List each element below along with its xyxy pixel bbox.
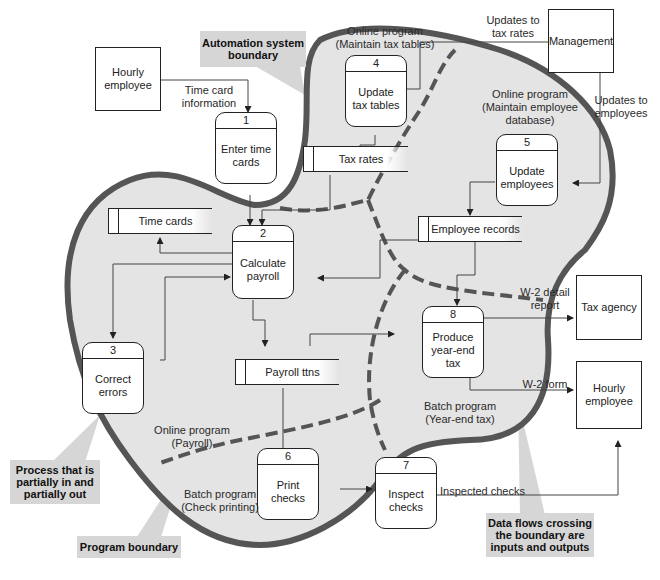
process-name: Print checks [258, 465, 318, 519]
callout-automation-boundary: Automation system boundary [200, 31, 306, 67]
process-name: Inspect checks [376, 474, 436, 528]
store-payroll-ttns[interactable]: Payroll ttns [235, 359, 339, 385]
process-name: Produce year-end tax [423, 323, 483, 377]
process-number: 1 [216, 113, 276, 129]
store-name: Employee records [429, 217, 522, 241]
flow-label-updates-tax-rates: Updates to tax rates [480, 14, 546, 40]
store-tab [419, 217, 429, 241]
callout-partial-process: Process that is partially in and partial… [10, 460, 100, 504]
flow-label-inspected-checks: Inspected checks [440, 485, 525, 498]
entity-hourly-employee[interactable]: Hourly employee [95, 47, 161, 111]
callout-data-flows: Data flows crossing the boundary are inp… [486, 513, 594, 557]
process-name: Update employees [497, 151, 557, 205]
process-name: Update tax tables [346, 72, 406, 126]
store-tax-rates[interactable]: Tax rates [303, 146, 408, 172]
program-label-maintain-emp: Online program (Maintain employee databa… [475, 88, 585, 127]
store-name: Tax rates [314, 147, 408, 171]
process-produce-year-end-tax[interactable]: 8 Produce year-end tax [422, 306, 484, 378]
program-label-payroll: Online program (Payroll) [152, 424, 232, 450]
process-print-checks[interactable]: 6 Print checks [257, 448, 319, 520]
flow-label-w2-form: W-2 form [515, 378, 575, 391]
program-label-check-printing: Batch program (Check printing) [180, 488, 260, 514]
process-correct-errors[interactable]: 3 Correct errors [82, 342, 144, 414]
process-number: 2 [233, 226, 293, 242]
process-number: 7 [376, 458, 436, 474]
process-inspect-checks[interactable]: 7 Inspect checks [375, 457, 437, 529]
process-name: Calculate payroll [233, 242, 293, 298]
flow-label-time-card-info: Time card information [174, 84, 244, 110]
callout-pointer [255, 66, 305, 95]
store-time-cards[interactable]: Time cards [108, 208, 212, 234]
process-update-employees[interactable]: 5 Update employees [496, 134, 558, 206]
process-name: Enter time cards [216, 129, 276, 183]
callout-pointer [52, 415, 100, 462]
store-tab [109, 209, 119, 233]
process-number: 3 [83, 343, 143, 359]
process-enter-time-cards[interactable]: 1 Enter time cards [215, 112, 277, 184]
store-name: Time cards [119, 209, 212, 233]
process-number: 8 [423, 307, 483, 323]
store-employee-records[interactable]: Employee records [418, 216, 522, 242]
process-number: 6 [258, 449, 318, 465]
entity-tax-agency[interactable]: Tax agency [576, 275, 642, 340]
entity-management[interactable]: Management [548, 9, 614, 73]
process-number: 5 [497, 135, 557, 151]
store-tab [236, 360, 246, 384]
program-label-maintain-tax: Online program (Maintain tax tables) [335, 25, 435, 51]
store-name: Payroll ttns [246, 360, 339, 384]
process-update-tax-tables[interactable]: 4 Update tax tables [345, 55, 407, 127]
entity-hourly-employee-out[interactable]: Hourly employee [576, 361, 642, 429]
process-number: 4 [346, 56, 406, 72]
callout-program-boundary: Program boundary [77, 536, 181, 558]
flow-label-updates-employees: Updates to employees [585, 94, 657, 120]
store-tab [304, 147, 314, 171]
flow-label-w2-detail: W-2 detail report [515, 286, 575, 312]
process-name: Correct errors [83, 359, 143, 413]
program-label-year-end: Batch program (Year-end tax) [415, 400, 505, 426]
process-calculate-payroll[interactable]: 2 Calculate payroll [232, 225, 294, 299]
